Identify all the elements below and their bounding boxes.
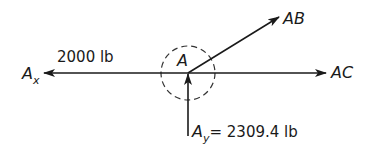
ax-magnitude-label: 2000 lb (57, 50, 114, 65)
ax-label: Ax (22, 66, 39, 82)
ay-label-subscript: y (203, 132, 210, 145)
force-ab-arrow (188, 17, 279, 73)
force-diagram (0, 0, 370, 158)
ax-label-base: A (22, 64, 33, 83)
ac-label: AC (331, 65, 353, 81)
point-a-label: A (177, 53, 188, 69)
ay-label: Ay= 2309.4 lb (192, 124, 298, 140)
ay-magnitude-label: = 2309.4 lb (209, 123, 297, 141)
ay-label-base: A (192, 122, 203, 141)
ax-label-subscript: x (33, 74, 40, 87)
ab-label: AB (283, 11, 305, 27)
